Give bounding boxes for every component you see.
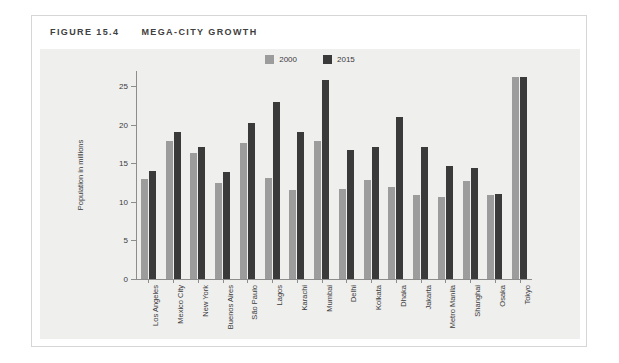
y-tick-15 <box>131 163 136 164</box>
bar-2015 <box>347 150 354 279</box>
bar-2000 <box>190 153 197 279</box>
x-tick <box>346 279 347 283</box>
bar-2000 <box>512 77 519 279</box>
y-axis-line <box>136 71 137 279</box>
bar-group <box>437 71 453 279</box>
bar-group <box>215 71 231 279</box>
bar-group <box>165 71 181 279</box>
bar-2015 <box>198 147 205 280</box>
y-tick-5 <box>131 240 136 241</box>
bar-2015 <box>248 123 255 279</box>
x-tick <box>247 279 248 283</box>
legend-label-2000: 2000 <box>279 55 297 64</box>
x-axis-label: Metro Manila <box>448 285 457 328</box>
bar-2000 <box>364 180 371 279</box>
bar-group <box>487 71 503 279</box>
bar-2015 <box>495 194 502 280</box>
x-tick <box>173 279 174 283</box>
x-axis-label: Kolkata <box>374 285 383 310</box>
legend-swatch-2000 <box>265 55 274 64</box>
bar-2015 <box>322 80 329 279</box>
bar-2015 <box>273 102 280 279</box>
x-axis-label: Los Angeles <box>151 285 160 326</box>
x-tick <box>272 279 273 283</box>
y-tick-label-25: 25 <box>119 82 128 91</box>
bar-2015 <box>396 117 403 279</box>
x-tick <box>445 279 446 283</box>
bar-2015 <box>149 171 156 279</box>
legend-swatch-2015 <box>323 55 332 64</box>
bar-group <box>239 71 255 279</box>
bar-2000 <box>487 195 494 279</box>
bar-2000 <box>388 187 395 279</box>
x-axis-label: São Paulo <box>250 285 259 320</box>
legend-entry-2015: 2015 <box>323 55 355 64</box>
x-tick <box>520 279 521 283</box>
bar-group <box>190 71 206 279</box>
y-tick-label-10: 10 <box>119 197 128 206</box>
x-axis-label: Dhaka <box>399 285 408 307</box>
chart-legend: 20002015 <box>40 55 580 64</box>
x-tick <box>470 279 471 283</box>
bar-group <box>413 71 429 279</box>
bar-group <box>512 71 528 279</box>
bar-group <box>388 71 404 279</box>
y-tick-label-5: 5 <box>124 236 128 245</box>
x-tick <box>223 279 224 283</box>
x-axis-label: Tokyo <box>523 285 532 305</box>
x-axis-label: Delhi <box>349 285 358 302</box>
figure-header: FIGURE 15.4 MEGA-CITY GROWTH <box>32 16 586 48</box>
bar-group <box>363 71 379 279</box>
x-tick <box>421 279 422 283</box>
y-tick-25 <box>131 86 136 87</box>
x-axis-label: Lagos <box>275 285 284 305</box>
x-axis-label: Buenos Aires <box>226 285 235 329</box>
figure-card: FIGURE 15.4 MEGA-CITY GROWTH 20002015 Po… <box>31 15 587 347</box>
bar-2000 <box>438 197 445 279</box>
y-axis-title: Population in millions <box>76 140 85 210</box>
x-tick <box>371 279 372 283</box>
bar-group <box>289 71 305 279</box>
x-axis-label: Shanghai <box>473 285 482 317</box>
x-axis-label: Karachi <box>300 285 309 310</box>
bar-2000 <box>413 195 420 279</box>
y-tick-label-15: 15 <box>119 159 128 168</box>
x-axis-label: New York <box>201 285 210 317</box>
x-axis-label: Jakarta <box>424 285 433 310</box>
y-tick-10 <box>131 202 136 203</box>
bar-2015 <box>372 147 379 280</box>
bar-2015 <box>471 168 478 279</box>
bar-2015 <box>520 77 527 279</box>
x-tick <box>322 279 323 283</box>
x-tick <box>396 279 397 283</box>
y-tick-20 <box>131 125 136 126</box>
y-tick-0 <box>131 279 136 280</box>
x-tick <box>148 279 149 283</box>
legend-label-2015: 2015 <box>337 55 355 64</box>
figure-title: MEGA-CITY GROWTH <box>141 27 257 37</box>
x-axis-label: Mumbai <box>325 285 334 312</box>
x-axis-label: Osaka <box>498 285 507 307</box>
bar-group <box>338 71 354 279</box>
figure-number: FIGURE 15.4 <box>50 27 119 37</box>
bar-2015 <box>174 132 181 279</box>
bar-2015 <box>223 172 230 279</box>
bar-group <box>140 71 156 279</box>
bar-2000 <box>215 183 222 279</box>
x-tick <box>495 279 496 283</box>
bar-2000 <box>166 141 173 279</box>
y-tick-label-20: 20 <box>119 120 128 129</box>
bar-group <box>314 71 330 279</box>
bar-2000 <box>314 141 321 279</box>
chart-plot-panel: 20002015 Population in millions 05101520… <box>40 49 580 339</box>
x-tick <box>198 279 199 283</box>
legend-entry-2000: 2000 <box>265 55 297 64</box>
x-tick <box>297 279 298 283</box>
bar-2015 <box>446 166 453 279</box>
bar-group <box>462 71 478 279</box>
bar-2000 <box>289 190 296 279</box>
bar-2015 <box>421 147 428 280</box>
bar-2000 <box>463 181 470 279</box>
bar-2000 <box>141 179 148 279</box>
x-axis-label: Mexico City <box>176 285 185 324</box>
